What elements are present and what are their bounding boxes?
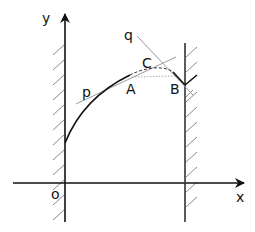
trajectory-curve <box>65 75 130 143</box>
y-axis-label: y <box>42 10 50 26</box>
x-axis-label: x <box>236 189 244 205</box>
point-c-label: C <box>142 55 152 71</box>
diagram-canvas: y x o p q A B C <box>0 0 255 232</box>
line-q-label: q <box>124 27 133 43</box>
line-p-label: p <box>82 84 91 100</box>
dotted-chord-a-to-b <box>132 76 176 77</box>
dashed-arc-a-to-b <box>130 68 176 75</box>
point-b-label: B <box>170 81 180 97</box>
reflected-segment <box>185 75 197 85</box>
origin-label: o <box>51 186 60 202</box>
point-a-label: A <box>126 81 136 97</box>
